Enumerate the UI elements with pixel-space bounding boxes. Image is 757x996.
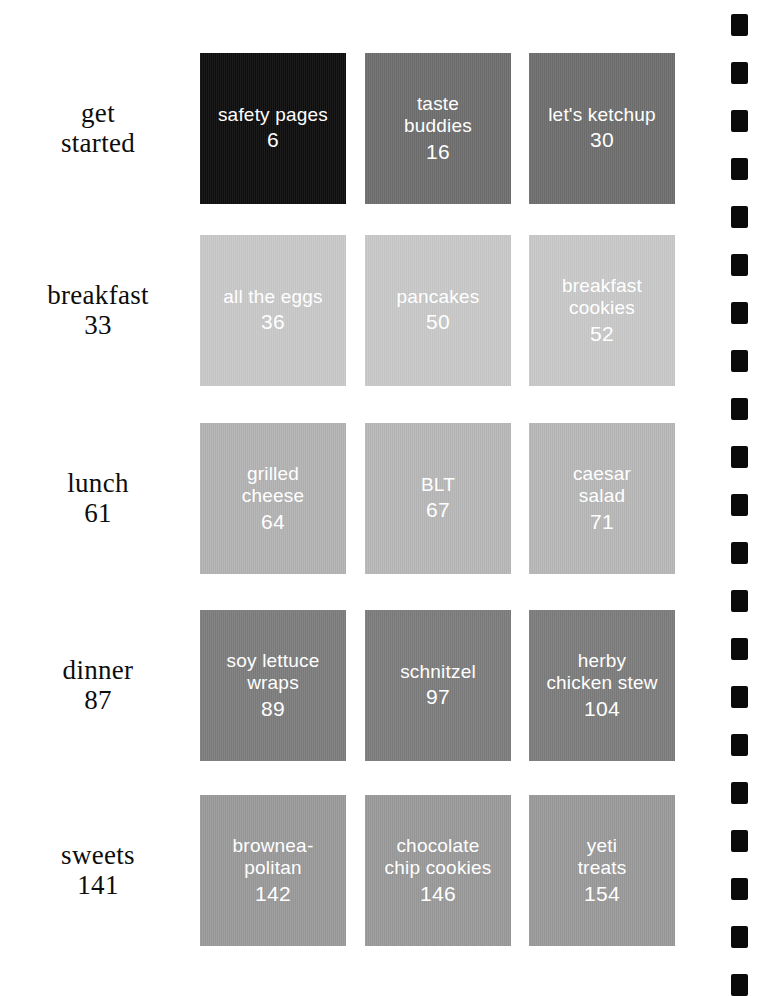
tile-page-number: 146: [420, 882, 456, 907]
toc-tile[interactable]: let's ketchup 30: [529, 53, 675, 204]
tile-page-number: 16: [426, 140, 450, 165]
tile-page-number: 52: [590, 322, 614, 347]
section-page-number: 61: [84, 499, 112, 529]
section-name: get started: [61, 99, 135, 158]
binding-hole-mark: [731, 734, 748, 756]
tile-title: pancakes: [397, 286, 480, 308]
binding-hole-mark: [731, 206, 748, 228]
section-label-dinner: dinner 87: [0, 610, 196, 761]
table-of-contents-grid: get started safety pages 6 taste buddies…: [0, 0, 700, 991]
section-label-lunch: lunch 61: [0, 423, 196, 574]
binding-hole-mark: [731, 878, 748, 900]
tile-title: safety pages: [218, 104, 328, 126]
tile-title: brownea- politan: [233, 835, 314, 880]
binding-hole-mark: [731, 926, 748, 948]
tile-title: caesar salad: [573, 463, 631, 508]
tile-title: herby chicken stew: [546, 650, 657, 695]
toc-tile[interactable]: pancakes 50: [365, 235, 511, 386]
tile-page-number: 154: [584, 882, 620, 907]
tile-page-number: 71: [590, 510, 614, 535]
section-name: lunch: [67, 469, 129, 499]
binding-hole-mark: [731, 350, 748, 372]
binding-hole-mark: [731, 110, 748, 132]
tile-page-number: 64: [261, 510, 285, 535]
section-name: sweets: [61, 841, 135, 871]
toc-tile[interactable]: herby chicken stew 104: [529, 610, 675, 761]
binding-hole-mark: [731, 590, 748, 612]
tile-title: let's ketchup: [548, 104, 656, 126]
tile-page-number: 67: [426, 498, 450, 523]
tile-page-number: 6: [267, 128, 279, 153]
binding-hole-mark: [731, 398, 748, 420]
toc-tile[interactable]: breakfast cookies 52: [529, 235, 675, 386]
toc-tile[interactable]: all the eggs 36: [200, 235, 346, 386]
toc-row: breakfast 33 all the eggs 36 pancakes 50…: [0, 235, 700, 386]
toc-tile[interactable]: chocolate chip cookies 146: [365, 795, 511, 946]
section-label-sweets: sweets 141: [0, 795, 196, 946]
binding-hole-mark: [731, 782, 748, 804]
tile-title: grilled cheese: [242, 463, 304, 508]
tile-page-number: 142: [255, 882, 291, 907]
binding-hole-mark: [731, 686, 748, 708]
tile-title: breakfast cookies: [562, 275, 642, 320]
tile-page-number: 104: [584, 697, 620, 722]
toc-tile[interactable]: schnitzel 97: [365, 610, 511, 761]
binding-hole-mark: [731, 494, 748, 516]
toc-tile[interactable]: BLT 67: [365, 423, 511, 574]
tile-page-number: 89: [261, 697, 285, 722]
toc-row: sweets 141 brownea- politan 142 chocolat…: [0, 795, 700, 946]
tile-page-number: 97: [426, 685, 450, 710]
tile-title: all the eggs: [223, 286, 323, 308]
tile-title: chocolate chip cookies: [385, 835, 492, 880]
binding-hole-mark: [731, 302, 748, 324]
binding-hole-mark: [731, 974, 748, 996]
tile-page-number: 50: [426, 310, 450, 335]
binding-hole-mark: [731, 638, 748, 660]
tile-title: schnitzel: [400, 661, 476, 683]
binding-hole-mark: [731, 254, 748, 276]
binding-hole-mark: [731, 62, 748, 84]
tile-title: BLT: [421, 474, 455, 496]
toc-tile[interactable]: caesar salad 71: [529, 423, 675, 574]
tile-title: yeti treats: [578, 835, 627, 880]
spiral-binding-column: [700, 0, 757, 991]
section-page-number: 87: [84, 686, 112, 716]
tile-page-number: 30: [590, 128, 614, 153]
toc-row: lunch 61 grilled cheese 64 BLT 67 caesar…: [0, 423, 700, 574]
binding-hole-mark: [731, 446, 748, 468]
toc-tile[interactable]: taste buddies 16: [365, 53, 511, 204]
binding-hole-mark: [731, 542, 748, 564]
binding-hole-mark: [731, 830, 748, 852]
toc-tile[interactable]: grilled cheese 64: [200, 423, 346, 574]
tile-page-number: 36: [261, 310, 285, 335]
toc-tile[interactable]: brownea- politan 142: [200, 795, 346, 946]
binding-hole-mark: [731, 158, 748, 180]
toc-row: dinner 87 soy lettuce wraps 89 schnitzel…: [0, 610, 700, 761]
binding-hole-mark: [731, 14, 748, 36]
tile-title: taste buddies: [404, 93, 472, 138]
section-name: breakfast: [47, 281, 149, 311]
section-name: dinner: [63, 656, 134, 686]
section-label-get-started: get started: [0, 53, 196, 204]
toc-tile[interactable]: soy lettuce wraps 89: [200, 610, 346, 761]
toc-tile[interactable]: safety pages 6: [200, 53, 346, 204]
tile-title: soy lettuce wraps: [226, 650, 319, 695]
section-label-breakfast: breakfast 33: [0, 235, 196, 386]
section-page-number: 33: [84, 311, 112, 341]
section-page-number: 141: [77, 871, 118, 901]
toc-tile[interactable]: yeti treats 154: [529, 795, 675, 946]
toc-row: get started safety pages 6 taste buddies…: [0, 53, 700, 204]
